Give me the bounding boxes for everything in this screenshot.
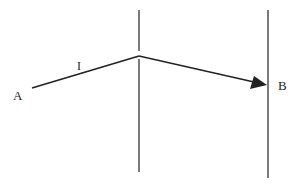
arrowhead-icon [250,76,267,89]
incident-segment [32,56,139,88]
refracted-segment [139,56,254,82]
label-i: I [77,60,81,72]
label-b: B [278,79,287,92]
label-a: A [13,89,22,102]
diagram-svg [0,0,298,187]
diagram-canvas: A I B [0,0,298,187]
